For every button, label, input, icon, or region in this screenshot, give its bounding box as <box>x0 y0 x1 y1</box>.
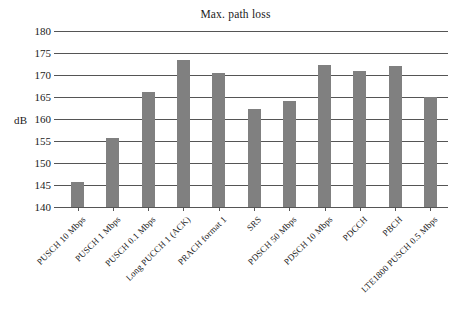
tick-mark <box>54 31 60 32</box>
y-axis-tick-label: 150 <box>35 158 52 169</box>
category-tick <box>325 207 326 211</box>
bar <box>424 97 437 207</box>
category-tick <box>289 207 290 211</box>
y-axis-tick-label: 175 <box>35 48 52 59</box>
tick-mark <box>54 119 60 120</box>
category-tick <box>148 207 149 211</box>
category-tick <box>78 207 79 211</box>
category-label: Long PUCCH 1 (ACK) <box>125 215 193 283</box>
bar <box>71 182 84 207</box>
tick-mark <box>54 141 60 142</box>
y-axis-tick-label: 145 <box>35 180 52 191</box>
y-axis-tick-label: 170 <box>35 70 52 81</box>
y-axis-label: dB <box>14 114 27 126</box>
bar <box>248 109 261 207</box>
category-tick <box>395 207 396 211</box>
category-tick <box>360 207 361 211</box>
tick-mark <box>54 97 60 98</box>
y-axis-tick-label: 140 <box>35 202 52 213</box>
category-tick <box>254 207 255 211</box>
gridline <box>60 31 448 32</box>
y-axis-tick-label: 160 <box>35 114 52 125</box>
bar <box>389 66 402 207</box>
category-tick <box>183 207 184 211</box>
gridline <box>60 53 448 54</box>
y-axis-tick-label: 165 <box>35 92 52 103</box>
tick-mark <box>54 185 60 186</box>
bar <box>106 138 119 207</box>
tick-mark <box>54 207 60 208</box>
category-label: SRS <box>245 215 263 233</box>
category-tick <box>430 207 431 211</box>
bar <box>212 73 225 207</box>
tick-mark <box>54 75 60 76</box>
category-tick <box>219 207 220 211</box>
tick-mark <box>54 163 60 164</box>
category-tick <box>113 207 114 211</box>
tick-mark <box>54 53 60 54</box>
bar <box>177 60 190 207</box>
bar <box>353 71 366 207</box>
category-label: LTE1800 PUSCH 0.5 Mbps <box>360 215 439 294</box>
bar <box>283 101 296 207</box>
max-path-loss-bar-chart: Max. path loss dB 1401451501551601651701… <box>0 0 471 331</box>
chart-title: Max. path loss <box>0 8 471 20</box>
y-axis-tick-label: 155 <box>35 136 52 147</box>
bar <box>142 92 155 207</box>
category-label: PBCH <box>381 215 404 238</box>
bar <box>318 65 331 207</box>
plot-area: 140145150155160165170175180 PUSCH 10 Mbp… <box>60 31 448 207</box>
category-label: PDCCH <box>341 215 369 243</box>
y-axis-tick-label: 180 <box>35 26 52 37</box>
